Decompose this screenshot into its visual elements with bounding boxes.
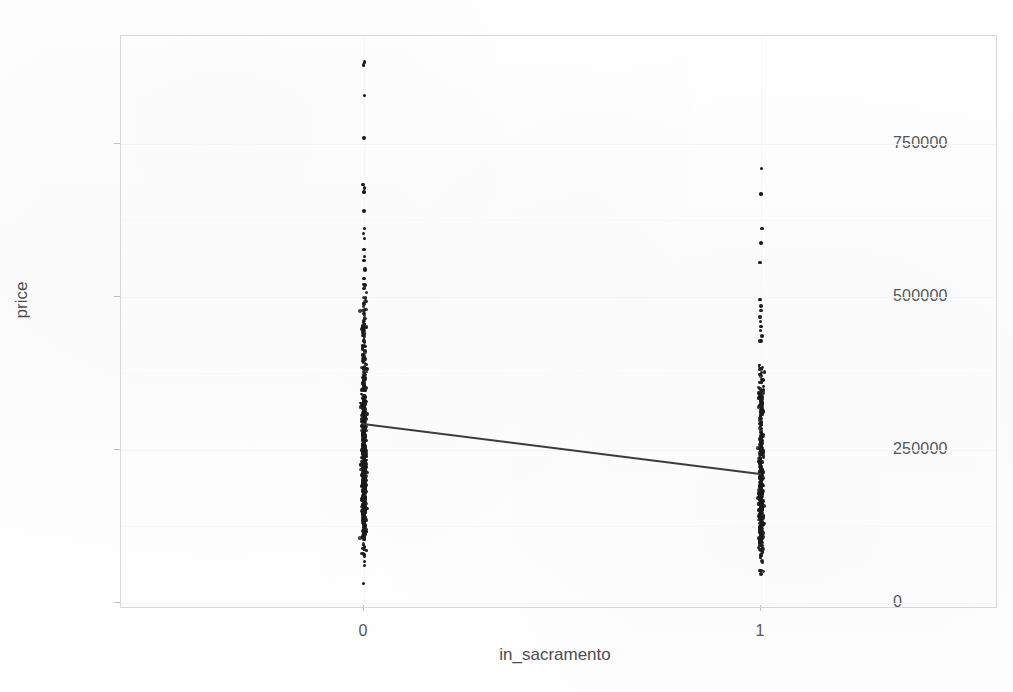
- scatter-point-outlier: [362, 63, 365, 66]
- scatter-point: [758, 364, 761, 367]
- scatter-point: [760, 559, 764, 563]
- scatter-point: [364, 519, 367, 522]
- scatter-point-outlier: [363, 227, 366, 230]
- scatter-point-outlier: [363, 564, 366, 567]
- scatter-point: [760, 381, 763, 384]
- scatter-point: [362, 305, 365, 308]
- scatter-point: [760, 544, 763, 547]
- scatter-point-outlier: [362, 248, 365, 251]
- scatter-point: [363, 536, 366, 539]
- scatter-point-outlier: [362, 277, 366, 281]
- scatter-point: [760, 501, 763, 504]
- gridline-y-250000: [121, 450, 996, 451]
- scatter-point: [364, 386, 368, 390]
- scatter-point: [363, 371, 366, 374]
- scatter-point-outlier: [362, 582, 365, 585]
- scatter-point: [361, 443, 365, 447]
- scatter-point-outlier: [759, 192, 763, 196]
- scatter-point: [360, 552, 363, 555]
- scatter-point: [762, 385, 765, 388]
- scatter-point-outlier: [758, 339, 762, 343]
- scatter-point-outlier: [362, 136, 366, 140]
- scatter-point: [362, 335, 365, 338]
- scatter-point-outlier: [363, 255, 366, 258]
- scatter-point: [361, 347, 364, 350]
- scatter-point-outlier: [759, 304, 763, 308]
- scatter-point: [362, 430, 365, 433]
- scatter-point-outlier: [759, 325, 762, 328]
- scatter-point: [362, 434, 365, 437]
- scatter-point-outlier: [362, 259, 365, 262]
- scatter-point-outlier: [760, 334, 764, 338]
- scatter-point: [361, 508, 365, 512]
- x-tick-label-1: 1: [756, 622, 765, 640]
- scatter-point: [363, 317, 366, 320]
- gridline-y-750000: [121, 144, 996, 145]
- plot-area: [120, 35, 997, 608]
- scatter-point: [362, 499, 365, 502]
- gridline-y-minor-625000: [121, 220, 996, 221]
- scatter-point: [758, 498, 761, 501]
- scatter-point: [758, 391, 761, 394]
- scatter-point: [760, 443, 763, 446]
- scatter-point: [762, 454, 766, 458]
- scatter-point-outlier: [362, 209, 366, 213]
- scatter-point: [760, 463, 763, 466]
- gridline-y-minor-125000: [121, 526, 996, 527]
- x-tick-label-0: 0: [359, 622, 368, 640]
- scatter-point: [759, 520, 762, 523]
- scatter-point-outlier: [759, 309, 763, 313]
- scatter-point: [759, 487, 763, 491]
- x-axis-label: in_sacramento: [499, 645, 611, 665]
- scatter-point-outlier: [760, 167, 763, 170]
- scatter-point: [362, 312, 366, 316]
- scatter-point: [363, 357, 367, 361]
- scatter-point-outlier: [363, 267, 367, 271]
- scatter-point: [761, 401, 764, 404]
- scatter-point: [363, 526, 367, 530]
- scatter-point-outlier: [363, 283, 367, 287]
- scatter-point: [761, 472, 764, 475]
- scatter-point-outlier: [759, 572, 763, 576]
- scatter-point: [362, 479, 365, 482]
- gridline-y-500000: [121, 297, 996, 298]
- scatter-point: [760, 367, 763, 370]
- scatter-point-outlier: [758, 315, 762, 319]
- scatter-point: [358, 309, 362, 313]
- chart-canvas: price in_sacramento 0 250000 500000 7500…: [0, 0, 1013, 692]
- scatter-point-outlier: [363, 560, 366, 563]
- gridline-y-minor-375000: [121, 373, 996, 374]
- scatter-point: [759, 439, 762, 442]
- scatter-point: [364, 453, 368, 457]
- scatter-point: [760, 492, 763, 495]
- scatter-point: [358, 536, 362, 540]
- scatter-point: [361, 325, 364, 328]
- scatter-point: [363, 286, 366, 289]
- scatter-point: [363, 341, 366, 344]
- scatter-point: [365, 291, 368, 294]
- scatter-point: [362, 296, 365, 299]
- scatter-point: [761, 409, 764, 412]
- scatter-point: [362, 466, 366, 470]
- scatter-point: [759, 480, 762, 483]
- scatter-point-outlier: [759, 241, 763, 245]
- scatter-point-outlier: [362, 190, 366, 194]
- gridline-y-0: [121, 603, 996, 604]
- scatter-point: [365, 549, 368, 552]
- y-axis-label: price: [12, 282, 32, 319]
- scatter-point: [364, 308, 367, 311]
- scatter-point: [363, 523, 366, 526]
- scatter-point-outlier: [363, 94, 366, 97]
- scatter-point: [758, 528, 761, 531]
- scatter-point-outlier: [760, 227, 764, 231]
- scatter-point-outlier: [363, 237, 366, 240]
- scatter-point: [365, 363, 368, 366]
